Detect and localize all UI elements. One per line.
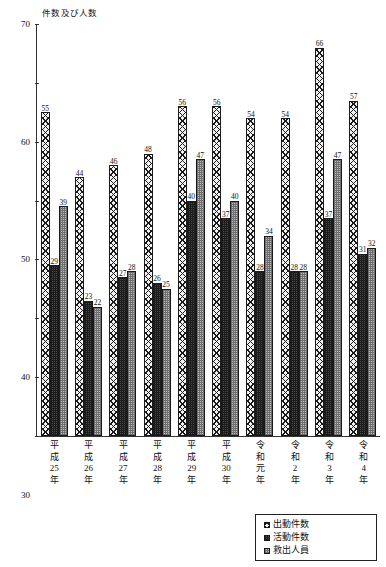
bar-value-label: 46 (110, 158, 118, 166)
x-category-label: 平成25年 (37, 440, 71, 486)
x-category-label-line: 令 (359, 440, 368, 452)
x-category-label-line: 平 (187, 440, 196, 452)
bar-value-label: 31 (359, 246, 367, 254)
bar: 46 (109, 165, 118, 436)
bar: 56 (212, 106, 221, 436)
x-category-label-line: 令 (325, 440, 334, 452)
legend-item-2: 救出人員 (264, 544, 372, 557)
x-axis-line (36, 436, 380, 437)
x-category-label-line: 元 (256, 463, 265, 475)
x-category-label-line: 年 (256, 475, 265, 487)
bar-value-label: 27 (119, 270, 127, 278)
y-tick-label: 50 (21, 255, 30, 264)
bar: 57 (349, 101, 358, 436)
x-category-label-line: 和 (291, 452, 300, 464)
x-category-label: 平成29年 (175, 440, 209, 486)
x-category-label-line: 4 (362, 463, 367, 475)
bar: 40 (187, 201, 196, 436)
bar-value-label: 56 (213, 99, 221, 107)
x-category-label-line: 和 (256, 452, 265, 464)
bar-group: 542828 (277, 24, 311, 436)
bar-chart: 件数及び人数 010203040506070 55293944232246272… (0, 0, 386, 567)
bar: 54 (281, 118, 290, 436)
bar: 44 (75, 177, 84, 436)
x-category-label-line: 年 (291, 475, 300, 487)
bar-value-label: 22 (94, 299, 102, 307)
legend-swatch-icon-0 (264, 522, 270, 528)
bar-value-label: 66 (316, 40, 324, 48)
bar: 23 (84, 301, 93, 436)
x-category-label: 平成27年 (106, 440, 140, 486)
bar: 55 (41, 112, 50, 436)
x-category-label-line: 3 (327, 463, 332, 475)
bar: 29 (50, 265, 59, 436)
x-category-label-line: 平 (50, 440, 59, 452)
x-category-label-line: 成 (153, 452, 162, 464)
x-category-label-line: 年 (359, 475, 368, 487)
bar: 54 (246, 118, 255, 436)
bar: 28 (299, 271, 308, 436)
bar-value-label: 28 (256, 264, 264, 272)
bar: 39 (59, 206, 68, 436)
bar-value-label: 28 (128, 264, 136, 272)
y-tick-label: 60 (21, 137, 30, 146)
x-category-label-line: 年 (119, 475, 128, 487)
bar: 66 (315, 48, 324, 436)
bar-value-label: 32 (368, 240, 376, 248)
x-category-label-line: 平 (84, 440, 93, 452)
x-category-label-line: 令 (291, 440, 300, 452)
bar: 48 (144, 154, 153, 437)
x-category-label-line: 成 (222, 452, 231, 464)
x-category-label: 平成28年 (140, 440, 174, 486)
bar: 25 (162, 289, 171, 436)
bar-value-label: 44 (76, 170, 84, 178)
bar-value-label: 39 (59, 199, 67, 207)
bar: 26 (153, 283, 162, 436)
bar-group: 482625 (140, 24, 174, 436)
x-category-label-line: 令 (256, 440, 265, 452)
x-category-label-line: 成 (119, 452, 128, 464)
y-tick-label: 70 (21, 20, 30, 29)
y-tick-label: 40 (21, 373, 30, 382)
x-category-label-line: 25 (50, 463, 59, 475)
x-category-label-line: 和 (325, 452, 334, 464)
x-category-label-line: 28 (153, 463, 162, 475)
bar: 28 (290, 271, 299, 436)
bar-value-label: 47 (197, 152, 205, 160)
bar-value-label: 28 (299, 264, 307, 272)
bar-value-label: 37 (325, 211, 333, 219)
bar-value-label: 54 (281, 111, 289, 119)
x-category-label: 平成26年 (71, 440, 105, 486)
bar: 40 (230, 201, 239, 436)
x-category-label-line: 年 (84, 475, 93, 487)
y-tick-mark: 0 (35, 436, 39, 437)
bar-value-label: 47 (334, 152, 342, 160)
x-category-label: 令和3年 (312, 440, 346, 486)
y-tick-label: 30 (21, 490, 30, 499)
x-category-label-line: 成 (84, 452, 93, 464)
bar: 28 (127, 271, 136, 436)
bar-value-label: 26 (153, 275, 161, 283)
x-category-label: 令和2年 (278, 440, 312, 486)
x-category-label-line: 平 (222, 440, 231, 452)
bar-value-label: 57 (350, 93, 358, 101)
bar-group: 564047 (174, 24, 208, 436)
x-category-label-line: 成 (50, 452, 59, 464)
legend-item-1: 活動件数 (264, 531, 372, 544)
bar-value-label: 54 (247, 111, 255, 119)
bar-group: 442322 (71, 24, 105, 436)
x-category-label-line: 年 (153, 475, 162, 487)
legend-swatch-icon-1 (264, 535, 270, 541)
bar-value-label: 40 (188, 193, 196, 201)
bar-group: 573132 (346, 24, 380, 436)
bar: 37 (221, 218, 230, 436)
bar: 27 (118, 277, 127, 436)
legend-label-1: 活動件数 (273, 531, 309, 544)
bar: 34 (264, 236, 273, 436)
bar: 56 (178, 106, 187, 436)
bar: 31 (358, 254, 367, 436)
bar-value-label: 56 (179, 99, 187, 107)
bar: 47 (196, 159, 205, 436)
bar-value-label: 28 (290, 264, 298, 272)
x-category-label-line: 26 (84, 463, 93, 475)
